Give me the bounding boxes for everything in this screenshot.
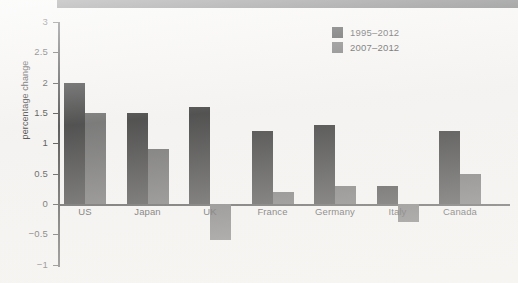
legend-item-1: 1995–2012 — [332, 27, 399, 38]
legend-swatch-gray — [332, 42, 343, 53]
bar-canada-series0 — [439, 131, 460, 204]
legend: 1995–20122007–2012 — [332, 27, 399, 53]
bar-japan-series0 — [127, 113, 148, 204]
y-tick-label: 2.5 — [8, 46, 48, 57]
y-axis-line — [58, 22, 60, 267]
y-tick-label: −0.5 — [8, 228, 48, 239]
y-tick-mark — [53, 265, 59, 266]
y-tick-mark — [53, 204, 59, 205]
legend-swatch-dark — [332, 27, 343, 38]
plot-area: percentage change 32.521.510.50−0.5−1 US… — [0, 0, 518, 283]
x-axis-label-canada: Canada — [423, 206, 497, 217]
y-tick-mark — [53, 143, 59, 144]
y-tick-mark — [53, 113, 59, 114]
y-tick-mark — [53, 52, 59, 53]
y-tick-mark — [53, 234, 59, 235]
chart-figure: percentage change 32.521.510.50−0.5−1 US… — [0, 0, 518, 283]
legend-label: 2007–2012 — [350, 42, 399, 53]
y-tick-mark — [53, 22, 59, 23]
bar-italy-series0 — [377, 186, 398, 204]
legend-item-2: 2007–2012 — [332, 42, 399, 53]
y-axis-title: percentage change — [20, 50, 30, 150]
y-tick-label: −1 — [8, 259, 48, 270]
bar-us-series1 — [85, 113, 106, 204]
bar-france-series1 — [273, 192, 294, 204]
bar-uk-series0 — [189, 107, 210, 204]
bar-france-series0 — [252, 131, 273, 204]
y-tick-mark — [53, 174, 59, 175]
y-tick-label: 0 — [8, 198, 48, 209]
y-tick-mark — [53, 83, 59, 84]
bar-canada-series1 — [460, 174, 481, 204]
bar-germany-series1 — [335, 186, 356, 204]
y-tick-label: 3 — [8, 16, 48, 27]
bar-germany-series0 — [314, 125, 335, 204]
legend-label: 1995–2012 — [350, 27, 399, 38]
y-tick-label: 1 — [8, 137, 48, 148]
bar-us-series0 — [64, 83, 85, 204]
y-tick-label: 2 — [8, 77, 48, 88]
y-tick-label: 0.5 — [8, 168, 48, 179]
y-tick-label: 1.5 — [8, 107, 48, 118]
bar-japan-series1 — [148, 149, 169, 204]
